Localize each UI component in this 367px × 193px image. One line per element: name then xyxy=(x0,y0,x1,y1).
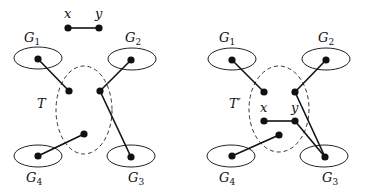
edge-G2-Tprime xyxy=(295,60,326,92)
label-y: y xyxy=(94,6,103,21)
node-T-bottom xyxy=(80,130,87,137)
node-G4 xyxy=(34,152,41,159)
label-G1: G1 xyxy=(219,30,235,47)
label-x: x xyxy=(64,6,72,21)
node-Tprime-bottom xyxy=(275,131,282,138)
label-G2: G2 xyxy=(125,30,141,47)
node-G3 xyxy=(321,153,328,160)
node-G2 xyxy=(322,56,329,63)
label-x: x xyxy=(260,100,268,115)
label-T: T xyxy=(37,96,47,111)
node-G4 xyxy=(228,152,235,159)
node-x xyxy=(260,117,267,124)
tree-Tprime-region xyxy=(249,66,309,152)
node-y xyxy=(95,24,102,31)
edge-G2-T xyxy=(100,60,131,91)
node-y xyxy=(291,117,298,124)
tree-T-region xyxy=(56,66,112,154)
edge-G1-T xyxy=(38,59,69,91)
label-G3: G3 xyxy=(128,170,144,187)
node-G3 xyxy=(127,153,134,160)
node-Tprime-left xyxy=(260,88,267,95)
node-G2 xyxy=(127,56,134,63)
node-G1 xyxy=(228,56,235,63)
label-G2: G2 xyxy=(318,30,334,47)
node-x xyxy=(64,24,71,31)
label-Tprime: T′ xyxy=(229,96,241,111)
node-Tprime-right xyxy=(291,88,298,95)
label-G4: G4 xyxy=(219,170,235,187)
label-G3: G3 xyxy=(322,170,338,187)
diagram-canvas: x y T G1 G2 G3 G4 T′ xyxy=(0,0,367,193)
label-y: y xyxy=(290,100,299,115)
left-diagram: x y T G1 G2 G3 G4 xyxy=(14,6,156,187)
label-G4: G4 xyxy=(26,170,42,187)
label-G1: G1 xyxy=(24,30,40,47)
node-G1 xyxy=(34,55,41,62)
node-T-left xyxy=(65,87,72,94)
node-T-right xyxy=(96,87,103,94)
right-diagram: T′ G1 G2 G3 G4 x y xyxy=(207,30,350,187)
